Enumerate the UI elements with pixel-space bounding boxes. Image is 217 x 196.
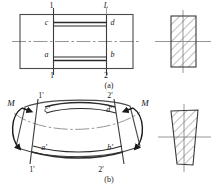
- section-line-1-b: [30, 99, 38, 164]
- label-b-point: b: [111, 50, 115, 59]
- label-a-bottom-1: 1: [50, 71, 54, 80]
- panel-b-group: M M 1' 2' 1' 2' c' d' a' b' (b): [6, 91, 149, 184]
- figure-canvas: 1 L 1 2 c d a b (a): [0, 0, 217, 196]
- neutral-axis-b: [14, 112, 140, 129]
- label-d-prime: d': [106, 105, 112, 114]
- moment-arrow-left-tip: [22, 108, 30, 111]
- label-c: c: [45, 18, 49, 27]
- label-b-top-1p: 1': [38, 91, 44, 100]
- label-b-bottom-2p: 2': [98, 165, 104, 174]
- cross-section-b-group: [158, 104, 211, 172]
- label-a-top-1: 1: [50, 1, 54, 10]
- label-d: d: [111, 18, 116, 27]
- label-b-bottom-1p: 1': [29, 165, 35, 174]
- label-a-bottom-2: 2: [104, 71, 108, 80]
- panel-a-group: 1 L 1 2 c d a b (a): [12, 1, 141, 90]
- label-a-point: a: [45, 50, 49, 59]
- label-a-prime: a': [41, 143, 47, 152]
- label-a-top-L: L: [103, 1, 109, 10]
- label-c-prime: c': [44, 105, 50, 114]
- moment-arrow-right-tip: [125, 108, 133, 111]
- cross-section-a-group: [155, 10, 211, 73]
- label-moment-right: M: [140, 98, 149, 108]
- label-b-top-2p: 2': [107, 91, 113, 100]
- cs-a-hatch-fill: [171, 16, 196, 67]
- caption-a: (a): [105, 81, 114, 90]
- label-b-prime: b': [107, 143, 113, 152]
- caption-b: (b): [104, 175, 114, 184]
- diagram-svg: 1 L 1 2 c d a b (a): [0, 0, 217, 196]
- fiber-cd-prime-top: [45, 103, 115, 108]
- label-moment-left: M: [6, 98, 15, 108]
